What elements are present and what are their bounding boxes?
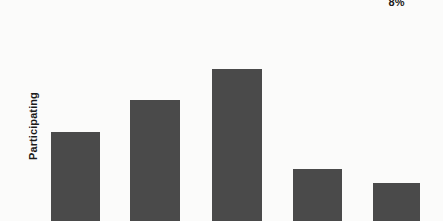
bar-rect[interactable] [293, 169, 342, 221]
bar-group: 8% Significantly Less [373, 47, 420, 221]
bar-group: 34% About the Same [212, 47, 262, 221]
bar-chart: Participating 19% Significantly More 27%… [0, 0, 443, 221]
bar-group: 11% Somewhat Less [293, 47, 342, 221]
bar-rect[interactable] [373, 183, 420, 221]
bar-group: 19% Significantly More [51, 47, 100, 221]
bar-value-label: 8% [389, 0, 405, 8]
bar-rect[interactable] [51, 132, 100, 221]
plot-area: 19% Significantly More 27% Somewhat More… [0, 0, 443, 221]
bar-group: 27% Somewhat More [130, 47, 180, 221]
bar-rect[interactable] [130, 100, 180, 221]
bar-rect[interactable] [212, 69, 262, 221]
